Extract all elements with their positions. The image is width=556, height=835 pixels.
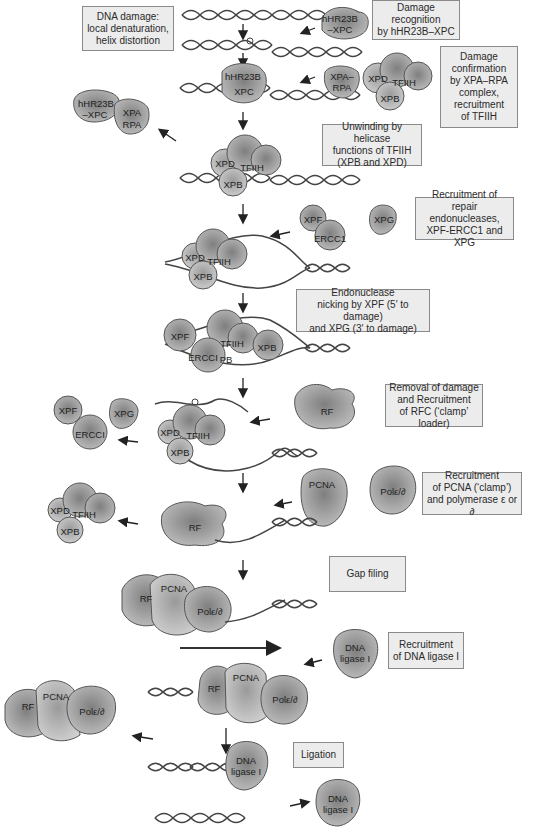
label-released-ercci: ERCCI xyxy=(75,429,105,440)
arrow-release xyxy=(160,130,176,141)
label-released-xpd: XPD xyxy=(50,505,70,516)
label-released-pcna: PCNA xyxy=(43,691,69,702)
dna-repaired xyxy=(155,814,245,823)
gapped-dna xyxy=(225,600,285,622)
label-tfiih: TFIIH xyxy=(186,430,210,441)
label-released-pol: Polε/∂ xyxy=(79,706,104,717)
step-box-recruit-endonucleases: Recruitment of repair endonucleases, XPF… xyxy=(415,197,514,240)
label-tfiih: TFIIH xyxy=(207,256,231,267)
protein-hhr23b-on-dna xyxy=(222,64,266,103)
label-released-xpa: XPA xyxy=(123,107,141,118)
arrow-release xyxy=(134,736,153,739)
label-released-xpf: XPF xyxy=(59,405,77,416)
label-xpb: XPB xyxy=(257,342,276,353)
label-ligase: DNA ligase I xyxy=(340,642,370,664)
step-box-dna-damage: DNA damage: local denaturation, helix di… xyxy=(82,6,174,51)
label-xpb: XPB xyxy=(223,179,242,190)
step-box-gap-filling: Gap filing xyxy=(329,556,406,592)
arrow-left xyxy=(272,232,290,236)
label-xpb: XPB xyxy=(193,271,212,282)
label-rf: RF xyxy=(208,683,221,694)
label-hhr23b-xpc: hHR23B –XPC xyxy=(322,13,358,35)
label-released-rf: RF xyxy=(22,701,35,712)
label-xpb: XPB xyxy=(170,447,189,458)
label-pol: Polε/∂ xyxy=(380,486,405,497)
label-xpf: XPF xyxy=(304,214,322,225)
label-xpc: XPC xyxy=(234,86,254,97)
protein-pcna xyxy=(301,469,347,526)
arrow-left xyxy=(306,660,322,664)
label-tfiih: TFIIH xyxy=(220,338,244,349)
label-xpd: XPD xyxy=(368,73,388,84)
step-box-removal-rfc: Removal of damage and Recruitment of RFC… xyxy=(385,384,483,427)
step-box-endonuclease-nicking: Endonuclease nicking by XPF (5′ to damag… xyxy=(296,289,430,332)
label-released-xpc: –XPC xyxy=(83,109,108,120)
step-box-recruit-pcna-pol: Recruitment of PCNA (‘clamp’) and polyme… xyxy=(422,472,522,515)
label-released-ligase: DNA ligase I xyxy=(323,793,353,815)
label-pcna: PCNA xyxy=(233,672,259,683)
arrow-left xyxy=(276,502,292,505)
label-released-rpa: RPA xyxy=(123,119,142,130)
label-pol: Polε/∂ xyxy=(272,694,297,705)
label-hhr23b: hHR23B xyxy=(225,71,261,82)
dna-helix xyxy=(148,763,193,771)
label-released-tfiih: TFIIH xyxy=(72,509,96,520)
step-box-ligation: Ligation xyxy=(293,742,344,768)
arrow-left xyxy=(252,419,270,422)
label-released-xpg: XPG xyxy=(114,408,134,419)
label-ercci: ERCCI xyxy=(188,352,218,363)
label-rf: RF xyxy=(321,406,334,417)
label-xpa-rpa: XPA– RPA xyxy=(330,71,354,93)
dna-helix-tfiih xyxy=(180,174,360,185)
step-box-damage-recognition: Damage recognition by hHR23B–XPC xyxy=(372,0,460,40)
label-tfiih: TFIIH xyxy=(392,77,416,88)
label-ercc1: ERCC1 xyxy=(314,233,346,244)
dna-helix-damaged xyxy=(182,38,362,57)
step-box-damage-confirmation: Damage confirmation by XPA–RPA complex, … xyxy=(440,46,518,128)
label-xpf: XPF xyxy=(171,331,189,342)
label-rf: RF xyxy=(189,522,202,533)
label-tfiih: TFIIH xyxy=(240,162,264,173)
step-box-recruit-ligase: Recruitment of DNA ligase I xyxy=(388,632,464,669)
label-xpd: XPD xyxy=(215,158,235,169)
label-xpd: XPD xyxy=(185,252,205,263)
label-released-xpb: XPB xyxy=(60,526,79,537)
label-released-hhr23b: hHR23B xyxy=(78,98,114,109)
dna-helix xyxy=(148,688,193,696)
gapped-dna xyxy=(188,448,298,471)
label-ligase: DNA ligase I xyxy=(231,755,261,777)
label-xpg: XPG xyxy=(374,214,394,225)
label-rf: RF xyxy=(140,593,153,604)
label-xpd: XPD xyxy=(160,427,180,438)
label-pcna: PCNA xyxy=(309,479,335,490)
label-pcna: PCNA xyxy=(161,583,187,594)
step-box-unwinding: Unwinding by helicase functions of TFIIH… xyxy=(322,124,422,166)
label-pol: Polε/∂ xyxy=(197,606,222,617)
label-pb: PB xyxy=(220,354,233,365)
label-xpb: XPB xyxy=(380,93,399,104)
arrow-release xyxy=(290,802,308,806)
arrow-left xyxy=(302,28,315,33)
arrow-release xyxy=(120,521,138,524)
arrow-release xyxy=(120,440,138,442)
arrow-left xyxy=(302,77,315,82)
